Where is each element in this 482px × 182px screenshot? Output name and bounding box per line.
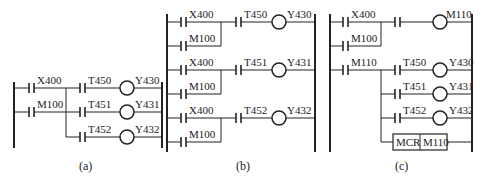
output-rung: T451 Y431 xyxy=(381,80,473,101)
contact-label: X400 xyxy=(189,56,214,68)
coil-label: Y431 xyxy=(449,80,473,92)
coil-icon xyxy=(433,15,447,29)
coil-icon xyxy=(433,63,447,77)
contact-label: M100 xyxy=(37,98,64,110)
coil-label: M110 xyxy=(446,8,472,20)
coil-icon xyxy=(433,87,447,101)
rung-group: X400 M100 T451 Y431 xyxy=(167,56,315,99)
output-rung: T452 Y432 xyxy=(381,104,473,125)
output-rung: T452 Y432 xyxy=(80,123,162,144)
contact-label: T452 xyxy=(88,123,111,135)
caption-b: (b) xyxy=(236,159,250,173)
contact-label: M100 xyxy=(351,32,378,44)
contact-m110-icon xyxy=(343,65,348,75)
contact-label: T451 xyxy=(88,98,111,110)
contact-label: T450 xyxy=(403,56,427,68)
contact-label: T450 xyxy=(244,8,268,20)
mcr-operand-label: M110 xyxy=(423,136,449,148)
output-rung: T450 Y430 xyxy=(395,56,474,77)
contact-label: T450 xyxy=(88,74,112,86)
coil-label: Y431 xyxy=(287,56,311,68)
rung-group: X400 M100 T452 Y432 xyxy=(167,104,315,147)
caption-c: (c) xyxy=(395,159,408,173)
panel-c: X400 M100 M110 M110 T450 Y430 xyxy=(330,8,474,173)
coil-icon xyxy=(120,81,134,95)
coil-icon xyxy=(433,111,447,125)
mcr-instr-label: MCR xyxy=(396,136,421,148)
coil-label: Y431 xyxy=(135,98,159,110)
coil-label: Y432 xyxy=(449,104,473,116)
contact-label: T452 xyxy=(244,104,267,116)
coil-icon xyxy=(120,105,134,119)
coil-label: Y430 xyxy=(135,74,160,86)
contact-label: X400 xyxy=(351,8,376,20)
contact-label: T452 xyxy=(403,104,426,116)
coil-icon xyxy=(120,130,134,144)
output-rung: T451 Y431 xyxy=(80,98,162,119)
rung-group: X400 M100 T450 Y430 xyxy=(167,8,315,51)
contact-label: T451 xyxy=(403,80,426,92)
contact-label: M100 xyxy=(189,128,216,140)
contact-label: T451 xyxy=(244,56,267,68)
panel-b: X400 M100 T450 Y430 X400 M100 xyxy=(167,8,315,173)
caption-a: (a) xyxy=(79,159,92,173)
panel-a: X400 M100 T450 Y430 T451 Y431 xyxy=(14,74,162,173)
contact-label: X400 xyxy=(37,74,62,86)
contact-m100-icon xyxy=(29,107,34,117)
ladder-diagram-figure: X400 M100 T450 Y430 T451 Y431 xyxy=(0,0,482,182)
coil-label: Y432 xyxy=(287,104,311,116)
contact-label: M100 xyxy=(189,32,216,44)
coil-label: Y432 xyxy=(135,123,159,135)
contact-x400-icon xyxy=(29,83,34,93)
set-rung: X400 M100 M110 xyxy=(330,8,472,51)
mcr-instruction-box: MCR M110 xyxy=(381,134,472,150)
contact-label: X400 xyxy=(189,8,214,20)
coil-icon xyxy=(272,111,286,125)
coil-label: Y430 xyxy=(287,8,312,20)
contact-label: M100 xyxy=(189,80,216,92)
coil-label: Y430 xyxy=(449,56,474,68)
coil-icon xyxy=(272,15,286,29)
contact-label: M110 xyxy=(351,56,377,68)
output-rung: T450 Y430 xyxy=(80,74,162,95)
coil-icon xyxy=(272,63,286,77)
contact-label: X400 xyxy=(189,104,214,116)
